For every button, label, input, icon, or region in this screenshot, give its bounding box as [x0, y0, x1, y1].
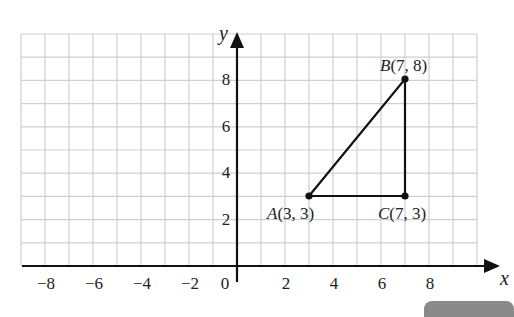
x-tick-label: 8: [426, 274, 435, 293]
x-tick-labels: −8 −6 −4 −2 0 2 4 6 8: [37, 274, 434, 293]
x-tick-label: 4: [330, 274, 339, 293]
point-c-name: C: [378, 204, 390, 223]
point-b: [401, 75, 408, 82]
y-tick-label: 8: [222, 70, 231, 89]
y-tick-label: 2: [222, 210, 231, 229]
point-a-name: A: [266, 204, 278, 223]
point-c-coords: (7, 3): [389, 204, 426, 223]
point-b-coords: (7, 8): [390, 56, 427, 75]
y-tick-label: 6: [222, 117, 231, 136]
x-tick-label: 2: [282, 274, 291, 293]
point-b-name: B: [380, 56, 391, 75]
point-a: [305, 192, 312, 199]
x-axis-arrow-icon: [484, 259, 500, 273]
x-axis-label: x: [499, 267, 509, 289]
origin-label: 0: [221, 274, 230, 293]
cropped-element: [424, 301, 514, 317]
x-tick-label: −6: [85, 274, 103, 293]
point-a-label: A(3, 3): [266, 204, 314, 223]
y-axis-label: y: [217, 22, 228, 45]
point-a-coords: (3, 3): [277, 204, 314, 223]
y-tick-label: 4: [222, 163, 231, 182]
x-tick-label: −4: [133, 274, 152, 293]
x-tick-label: −8: [37, 274, 55, 293]
point-b-label: B(7, 8): [380, 56, 427, 75]
x-tick-label: −2: [181, 274, 199, 293]
point-c: [401, 192, 408, 199]
x-tick-label: 6: [378, 274, 387, 293]
point-c-label: C(7, 3): [378, 204, 426, 223]
